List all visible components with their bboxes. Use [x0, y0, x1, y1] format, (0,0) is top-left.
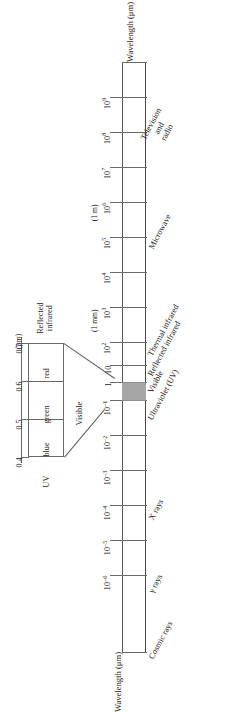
tick-10e-5	[110, 540, 147, 541]
visible-light-highlight-band	[122, 382, 146, 401]
tick-10e4	[110, 272, 147, 273]
scale-endcap-bottom	[122, 652, 147, 653]
tick-10e-3	[110, 470, 147, 471]
inset-divider-0-6	[28, 381, 64, 382]
tick-10e1	[110, 365, 147, 366]
tick-10e3	[110, 307, 147, 308]
axis-title-top-text: Wavelength (μm)	[125, 2, 135, 62]
leader-line-bottom	[64, 410, 105, 458]
tick-10e-6	[110, 575, 147, 576]
tick-10e-2	[110, 435, 147, 436]
inset-axis-line	[21, 337, 22, 463]
tick-10e9	[110, 97, 147, 98]
axis-title-bottom-text: Wavelength (μm)	[113, 652, 123, 712]
tick-10e2	[110, 342, 147, 343]
tick-10e-4	[110, 505, 147, 506]
tick-10e7	[110, 167, 147, 168]
wavelength-scale-rail	[122, 62, 146, 652]
tick-10e6	[110, 202, 147, 203]
scale-endcap-top	[122, 62, 147, 63]
tick-10e5	[110, 237, 147, 238]
visible-spectrum-inset	[28, 343, 64, 457]
